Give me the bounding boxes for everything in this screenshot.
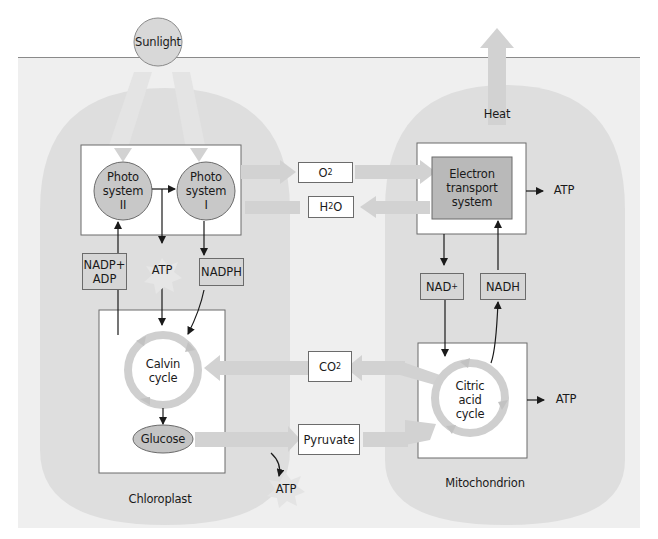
- heat-label: Heat: [477, 107, 517, 121]
- nadh-box: NADH: [480, 273, 526, 300]
- nadp-adp-box: NADP+ ADP: [82, 253, 127, 290]
- mitochondrion-label: Mitochondrion: [440, 476, 530, 490]
- sunlight-label: Sunlight: [134, 35, 182, 49]
- h2o-box: H2O: [308, 196, 354, 218]
- glucose-label: Glucose: [136, 432, 190, 446]
- electron-transport-label: Electron transport system: [432, 167, 512, 209]
- nad-box: NAD+: [420, 273, 464, 300]
- atp-label-chloroplast: ATP: [148, 263, 176, 277]
- photosystem-1-label: Photo system I: [182, 170, 230, 212]
- o2-box: O2: [298, 162, 353, 183]
- pyruvate-box: Pyruvate: [298, 424, 360, 455]
- chloroplast-label: Chloroplast: [120, 492, 200, 506]
- atp-label-ets: ATP: [550, 183, 578, 197]
- citric-acid-cycle-label: Citric acid cycle: [447, 379, 493, 421]
- photosystem-2-label: Photo system II: [99, 170, 147, 212]
- calvin-cycle-label: Calvin cycle: [138, 357, 188, 385]
- atp-label-citric: ATP: [552, 392, 580, 406]
- nadph-box: NADPH: [199, 258, 244, 286]
- atp-label-glycolysis: ATP: [272, 482, 300, 496]
- co2-box: CO2: [308, 351, 352, 382]
